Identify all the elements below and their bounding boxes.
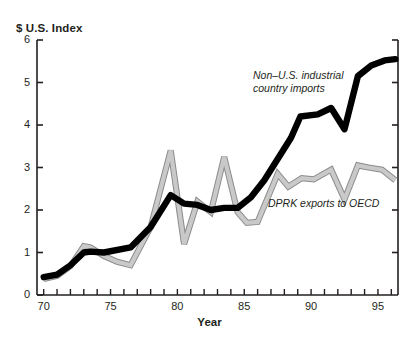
y-tick-label: 5 (14, 76, 30, 88)
y-tick-label: 3 (14, 161, 30, 173)
y-tick-label: 4 (14, 118, 30, 130)
chart-container: $ U.S. Index Non–U.S. industrialcountry … (0, 0, 419, 339)
x-axis-title: Year (0, 316, 419, 328)
x-tick-label: 85 (229, 300, 259, 312)
annotation-non-us-industrial-imports: Non–U.S. industrialcountry imports (253, 69, 343, 96)
x-tick-label: 75 (96, 300, 126, 312)
y-tick-label: 2 (14, 203, 30, 215)
axis-lines (37, 40, 398, 295)
y-axis-ticks (37, 40, 43, 295)
y-tick-label: 6 (14, 33, 30, 45)
annotation-dprk-exports: DPRK exports to OECD (268, 197, 379, 210)
annotation-black-line2: country imports (253, 82, 325, 94)
chart-plot-area (0, 0, 419, 339)
y-axis-ticks-right (392, 40, 398, 253)
y-tick-label: 0 (14, 288, 30, 300)
x-axis-ticks (44, 289, 392, 295)
x-tick-label: 80 (162, 300, 192, 312)
x-tick-label: 95 (363, 300, 393, 312)
y-tick-label: 1 (14, 246, 30, 258)
x-tick-label: 90 (296, 300, 326, 312)
annotation-black-line1: Non–U.S. industrial (253, 69, 343, 81)
x-tick-label: 70 (29, 300, 59, 312)
series-dprk-exports-to-oecd (44, 151, 396, 279)
